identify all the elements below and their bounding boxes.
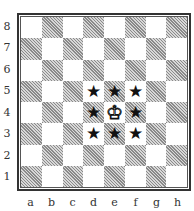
star-icon: ★	[128, 104, 143, 121]
square-d7	[83, 38, 104, 59]
square-a8	[21, 17, 42, 38]
square-f3: ★	[125, 123, 146, 144]
square-f2	[125, 145, 146, 166]
rank-label-8: 8	[2, 20, 12, 33]
square-a6	[21, 60, 42, 81]
file-label-f: f	[125, 196, 146, 209]
square-h8	[166, 17, 187, 38]
square-g1	[146, 166, 167, 187]
square-c6	[63, 60, 84, 81]
rank-label-5: 5	[2, 84, 12, 97]
square-h3	[166, 123, 187, 144]
chessboard: ★★★★♔★★★★	[17, 13, 191, 191]
square-d3: ★	[83, 123, 104, 144]
star-icon: ★	[86, 125, 101, 142]
square-h1	[166, 166, 187, 187]
square-b1	[42, 166, 63, 187]
square-c7	[63, 38, 84, 59]
square-d4: ★	[83, 102, 104, 123]
white-king-icon: ♔	[106, 103, 123, 122]
square-e8	[104, 17, 125, 38]
square-a3	[21, 123, 42, 144]
square-c4	[63, 102, 84, 123]
file-label-d: d	[83, 196, 104, 209]
square-a5	[21, 81, 42, 102]
square-h6	[166, 60, 187, 81]
star-icon: ★	[128, 125, 143, 142]
square-a2	[21, 145, 42, 166]
star-icon: ★	[86, 104, 101, 121]
square-e7	[104, 38, 125, 59]
square-c5	[63, 81, 84, 102]
square-b7	[42, 38, 63, 59]
square-d5: ★	[83, 81, 104, 102]
rank-label-2: 2	[2, 149, 12, 162]
rank-label-1: 1	[2, 170, 12, 183]
square-g8	[146, 17, 167, 38]
file-label-g: g	[146, 196, 167, 209]
square-e1	[104, 166, 125, 187]
square-c2	[63, 145, 84, 166]
star-icon: ★	[107, 83, 122, 100]
square-c1	[63, 166, 84, 187]
square-a4	[21, 102, 42, 123]
square-d8	[83, 17, 104, 38]
square-g5	[146, 81, 167, 102]
star-icon: ★	[107, 125, 122, 142]
square-b6	[42, 60, 63, 81]
rank-label-7: 7	[2, 41, 12, 54]
square-g7	[146, 38, 167, 59]
square-c3	[63, 123, 84, 144]
rank-label-3: 3	[2, 127, 12, 140]
file-label-e: e	[104, 196, 125, 209]
square-f7	[125, 38, 146, 59]
square-e3: ★	[104, 123, 125, 144]
square-a7	[21, 38, 42, 59]
square-f1	[125, 166, 146, 187]
square-g4	[146, 102, 167, 123]
file-label-h: h	[167, 196, 188, 209]
square-b3	[42, 123, 63, 144]
square-a1	[21, 166, 42, 187]
square-d6	[83, 60, 104, 81]
square-g2	[146, 145, 167, 166]
square-f8	[125, 17, 146, 38]
rank-label-6: 6	[2, 63, 12, 76]
square-d2	[83, 145, 104, 166]
square-g3	[146, 123, 167, 144]
square-h4	[166, 102, 187, 123]
square-e6	[104, 60, 125, 81]
square-e4: ♔	[104, 102, 125, 123]
star-icon: ★	[128, 83, 143, 100]
file-label-b: b	[41, 196, 62, 209]
square-g6	[146, 60, 167, 81]
square-h5	[166, 81, 187, 102]
square-c8	[63, 17, 84, 38]
square-b2	[42, 145, 63, 166]
square-f6	[125, 60, 146, 81]
square-h2	[166, 145, 187, 166]
file-label-c: c	[62, 196, 83, 209]
square-d1	[83, 166, 104, 187]
square-f4: ★	[125, 102, 146, 123]
square-b4	[42, 102, 63, 123]
board-grid: ★★★★♔★★★★	[20, 16, 188, 188]
file-label-a: a	[20, 196, 41, 209]
square-b8	[42, 17, 63, 38]
square-e2	[104, 145, 125, 166]
square-f5: ★	[125, 81, 146, 102]
square-b5	[42, 81, 63, 102]
star-icon: ★	[86, 83, 101, 100]
rank-label-4: 4	[2, 106, 12, 119]
square-h7	[166, 38, 187, 59]
square-e5: ★	[104, 81, 125, 102]
